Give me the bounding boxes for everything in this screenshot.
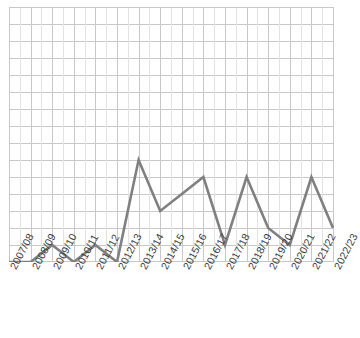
series-line bbox=[9, 7, 334, 262]
plot-area bbox=[9, 7, 334, 262]
x-axis-tick-labels: 2007/082008/092009/102010/112011/122012/… bbox=[9, 262, 334, 338]
